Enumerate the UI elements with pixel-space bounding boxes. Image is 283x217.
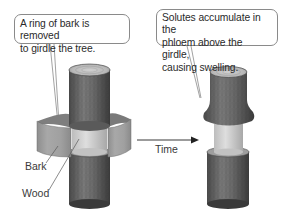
label-bark: Bark bbox=[25, 160, 47, 172]
callout-girdle: A ring of bark is removed to girdle the … bbox=[14, 14, 130, 44]
girdling-diagram: A ring of bark is removed to girdle the … bbox=[0, 0, 283, 217]
callout-swelling-line-1: Solutes accumulate in the bbox=[162, 12, 272, 37]
label-wood: Wood bbox=[22, 187, 49, 199]
callout-swelling-line-3: causing swelling. bbox=[162, 62, 272, 74]
callout-girdle-line-2: to girdle the tree. bbox=[20, 43, 124, 55]
left-tree-girdled bbox=[37, 64, 131, 209]
label-time: Time bbox=[155, 143, 178, 155]
right-tree-swollen bbox=[203, 67, 254, 210]
callout-swelling: Solutes accumulate in the phloem above t… bbox=[156, 9, 278, 46]
callout-girdle-line-1: A ring of bark is removed bbox=[20, 18, 124, 43]
callout-swelling-line-2: phloem above the girdle, bbox=[162, 37, 272, 62]
